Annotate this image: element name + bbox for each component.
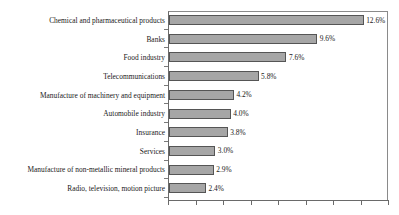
bar-value-label: 4.2% [236,90,251,99]
bar-row: Services3.0% [0,142,399,161]
bar[interactable] [169,165,214,175]
category-label: Telecommunications [2,72,165,81]
category-label: Chemical and pharmaceutical products [2,16,165,25]
bar-value-label: 7.6% [289,53,304,62]
bar-chart: Chemical and pharmaceutical products12.6… [0,0,399,215]
bar-with-value: 12.6% [169,15,385,25]
bar-value-label: 3.8% [230,128,245,137]
bar-row: Insurance3.8% [0,123,399,142]
category-label: Insurance [2,128,165,137]
bar[interactable] [169,109,231,119]
bar-with-value: 3.0% [169,146,233,156]
bar-with-value: 9.6% [169,34,335,44]
bar[interactable] [169,52,286,62]
category-label: Radio, television, motion picture [2,184,165,193]
x-axis-tick [223,200,224,205]
bar-with-value: 7.6% [169,52,304,62]
bar-value-label: 12.6% [366,16,385,25]
bar[interactable] [169,71,259,81]
x-axis-tick [278,200,279,205]
bar-value-label: 3.0% [218,146,233,155]
bar-with-value: 3.8% [169,127,246,137]
bar-with-value: 5.8% [169,71,277,81]
bar[interactable] [169,146,215,156]
x-axis-tick [168,200,169,205]
bar-row: Manufacture of non-metallic mineral prod… [0,161,399,180]
bar-with-value: 2.9% [169,165,232,175]
x-axis-tick [251,200,252,205]
category-label: Services [2,147,165,156]
bar-with-value: 4.2% [169,90,252,100]
bar-value-label: 2.4% [209,184,224,193]
bar-row: Manufacture of machinery and equipment4.… [0,86,399,105]
bar-rows-container: Chemical and pharmaceutical products12.6… [0,11,399,198]
x-axis-tick [333,200,334,205]
bar-value-label: 5.8% [261,72,276,81]
bar-with-value: 2.4% [169,183,224,193]
bar[interactable] [169,90,234,100]
bar-row: Automobile industry4.0% [0,105,399,124]
bar-row: Banks9.6% [0,30,399,49]
bar-row: Food industry7.6% [0,48,399,67]
bar-value-label: 4.0% [233,109,248,118]
bar[interactable] [169,34,317,44]
bar-value-label: 9.6% [320,34,335,43]
bar-value-label: 2.9% [216,165,231,174]
bar-row: Chemical and pharmaceutical products12.6… [0,11,399,30]
x-axis-tick [361,200,362,205]
category-label: Food industry [2,53,165,62]
y-axis-tick [164,197,168,198]
bar-with-value: 4.0% [169,109,249,119]
x-axis-tick [196,200,197,205]
category-label: Automobile industry [2,109,165,118]
bar[interactable] [169,15,364,25]
category-label: Manufacture of non-metallic mineral prod… [2,165,165,174]
category-label: Banks [2,35,165,44]
bar-row: Telecommunications5.8% [0,67,399,86]
bar-row: Radio, television, motion picture2.4% [0,179,399,198]
category-label: Manufacture of machinery and equipment [2,91,165,100]
bar[interactable] [169,183,206,193]
bar[interactable] [169,127,228,137]
x-axis-tick [306,200,307,205]
x-axis-tick [388,200,389,205]
